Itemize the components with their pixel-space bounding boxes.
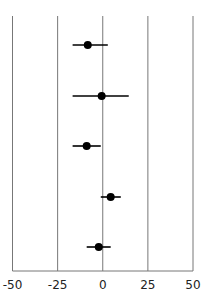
point-estimate [84,41,92,49]
x-tick-label: 50 [185,278,200,292]
x-tick-label: -50 [3,278,23,292]
forest-plot: -50-2502550 [0,0,210,297]
point-estimate [107,193,115,201]
point-estimate [83,142,91,150]
point-estimate [95,243,103,251]
point-estimate [98,92,106,100]
x-tick-label: -25 [48,278,68,292]
x-tick-label: 0 [99,278,107,292]
x-tick-label: 25 [140,278,155,292]
